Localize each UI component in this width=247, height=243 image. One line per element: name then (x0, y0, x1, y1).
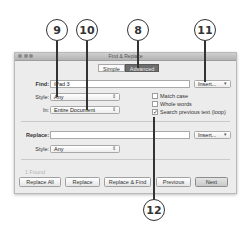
next-button[interactable]: Next (195, 177, 228, 187)
found-status: 1 Found (25, 169, 45, 175)
mode-tabs: Simple Advanced (98, 64, 159, 72)
whole-words-checkbox[interactable]: Whole words (152, 100, 192, 108)
find-input[interactable]: iPad 3 (50, 80, 190, 88)
find-style-select[interactable]: Any ⇕ (50, 93, 120, 101)
search-in-label: In: (23, 106, 49, 114)
simple-tab[interactable]: Simple (98, 64, 125, 72)
replace-input[interactable] (50, 131, 190, 139)
search-previous-checkbox[interactable]: ✓ Search previous text (loop) (152, 108, 226, 116)
title-bar[interactable]: Find & Replace (15, 53, 236, 61)
checkbox-box[interactable] (152, 93, 158, 99)
callout-11-leader (204, 41, 206, 82)
checkmark-icon[interactable]: ✓ (152, 109, 158, 115)
search-in-value: Entire Document (54, 107, 95, 113)
callout-8-leader (137, 41, 139, 68)
find-insert-label: Insert... (198, 81, 216, 87)
callout-12-leader (153, 117, 155, 200)
advanced-tab[interactable]: Advanced (125, 64, 159, 72)
find-style-label: Style: (23, 93, 49, 101)
replace-style-value: Any (54, 146, 63, 152)
find-insert-button[interactable]: Insert... ▾ (194, 80, 231, 88)
replace-style-label: Style: (23, 145, 49, 153)
divider (21, 121, 230, 122)
callout-9: 9 (46, 19, 68, 41)
match-case-label: Match case (160, 92, 188, 100)
search-previous-label: Search previous text (loop) (160, 108, 226, 116)
updown-arrows-icon: ⇕ (112, 94, 116, 100)
previous-button[interactable]: Previous (156, 177, 191, 187)
callout-11: 11 (194, 19, 216, 41)
chevron-down-icon: ▾ (224, 81, 227, 87)
callout-10-leader (86, 41, 88, 110)
replace-insert-button[interactable]: Insert... ▾ (194, 131, 231, 139)
divider (21, 159, 230, 160)
replace-and-find-button[interactable]: Replace & Find (104, 177, 151, 187)
updown-arrows-icon: ⇕ (112, 146, 116, 152)
find-label: Find: (23, 80, 49, 88)
callout-8: 8 (127, 19, 149, 41)
chevron-down-icon: ▾ (224, 132, 227, 138)
replace-style-select[interactable]: Any ⇕ (50, 145, 120, 153)
window-title: Find & Replace (15, 53, 236, 60)
callout-12: 12 (143, 199, 165, 221)
replace-all-button[interactable]: Replace All (19, 177, 61, 187)
replace-label: Replace: (17, 131, 49, 139)
search-in-select[interactable]: Entire Document ⇕ (50, 106, 120, 114)
match-case-checkbox[interactable]: Match case (152, 92, 188, 100)
checkbox-box[interactable] (152, 101, 158, 107)
replace-insert-label: Insert... (198, 132, 216, 138)
whole-words-label: Whole words (160, 100, 192, 108)
replace-button[interactable]: Replace (65, 177, 100, 187)
callout-9-leader (56, 41, 58, 97)
updown-arrows-icon: ⇕ (112, 107, 116, 113)
callout-10: 10 (76, 19, 98, 41)
